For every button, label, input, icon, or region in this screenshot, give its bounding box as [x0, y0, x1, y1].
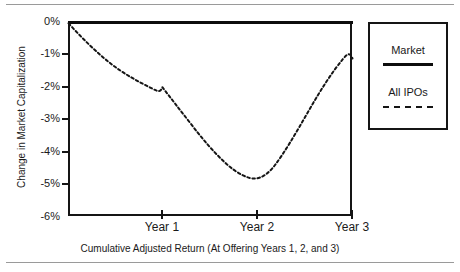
y-tick-label-0: 0% — [2, 16, 60, 27]
legend-label-market: Market — [370, 44, 446, 56]
x-axis-title: Cumulative Adjusted Return (At Offering … — [40, 243, 380, 254]
bottom-divider-rule — [6, 262, 454, 263]
x-tick-label-year-2: Year 2 — [212, 221, 302, 234]
y-tick-label-5: -5% — [2, 178, 60, 189]
top-divider-rule — [6, 4, 454, 5]
x-tick-mark-year-1 — [161, 210, 163, 219]
x-tick-mark-year-2 — [256, 210, 258, 219]
x-tick-label-year-1: Year 1 — [117, 221, 207, 234]
plot-area — [68, 21, 352, 216]
legend-swatch-dashed-line-icon — [383, 106, 433, 108]
legend-swatch-solid-line-icon — [383, 63, 433, 66]
y-tick-label-2: -2% — [2, 81, 60, 92]
y-tick-label-4: -4% — [2, 146, 60, 157]
legend-entry-all-ipos: All IPOs — [370, 86, 446, 108]
legend-label-all-ipos: All IPOs — [370, 86, 446, 98]
y-axis-tick-labels: 0% -1% -2% -3% -4% -5% -6% — [0, 0, 60, 272]
chart-figure: Change in Market Capitalization 0% -1% -… — [0, 0, 460, 272]
series-line-market — [68, 21, 353, 24]
chart-legend: Market All IPOs — [368, 22, 448, 130]
x-tick-label-year-3: Year 3 — [307, 221, 397, 234]
legend-entry-market: Market — [370, 44, 446, 66]
y-tick-label-1: -1% — [2, 48, 60, 59]
y-tick-label-3: -3% — [2, 113, 60, 124]
y-tick-label-6: -6% — [2, 211, 60, 222]
x-tick-mark-year-3 — [351, 210, 353, 219]
